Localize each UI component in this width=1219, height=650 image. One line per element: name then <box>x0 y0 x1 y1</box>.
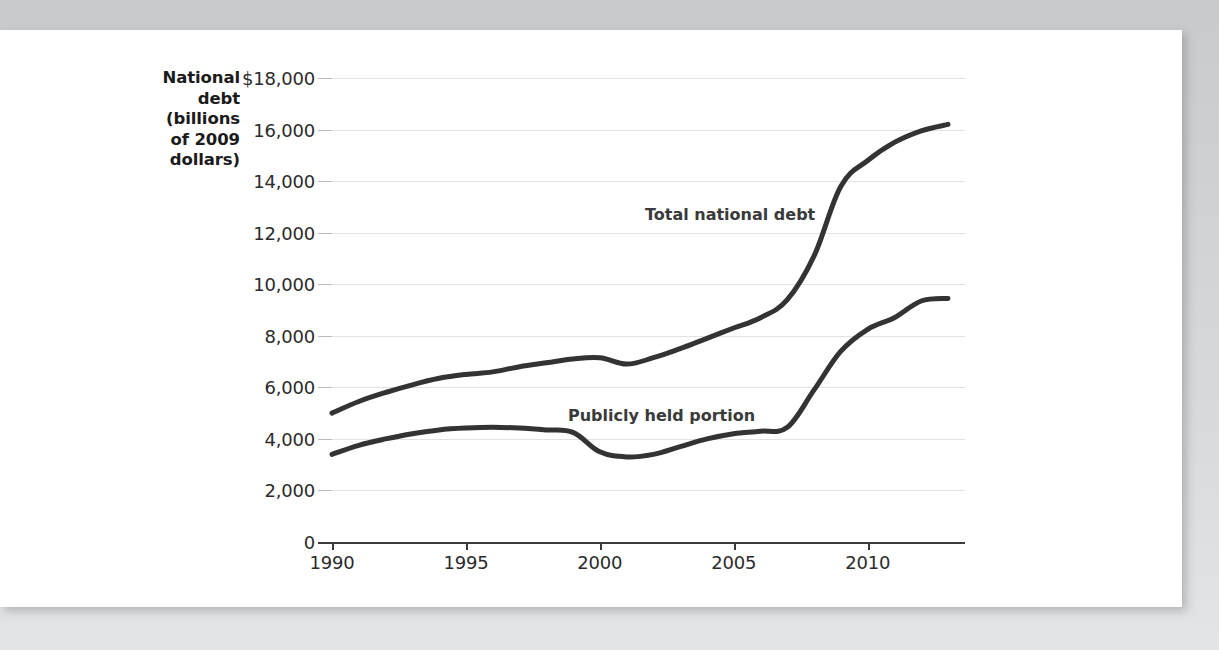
line-publicly-held-portion <box>332 298 948 457</box>
line-total-national-debt <box>332 124 948 413</box>
x-axis-tick-label: 1995 <box>421 552 511 573</box>
chart-series-lines <box>0 30 1182 607</box>
series-label-publicly-held-portion: Publicly held portion <box>568 406 755 425</box>
x-axis-tick-label: 2000 <box>555 552 645 573</box>
x-axis-tick-label: 1990 <box>287 552 377 573</box>
x-axis-tick-mark <box>466 542 468 550</box>
x-axis-tick-mark <box>600 542 602 550</box>
x-axis-tick-mark <box>734 542 736 550</box>
x-axis-tick-mark <box>332 542 334 550</box>
x-axis-tick-label: 2005 <box>689 552 779 573</box>
chart-figure: National debt (billions of 2009 dollars)… <box>0 30 1182 607</box>
x-axis-tick-label: 2010 <box>823 552 913 573</box>
series-label-total-national-debt: Total national debt <box>645 205 815 224</box>
x-axis-tick-mark <box>868 542 870 550</box>
document-page: National debt (billions of 2009 dollars)… <box>0 30 1182 607</box>
